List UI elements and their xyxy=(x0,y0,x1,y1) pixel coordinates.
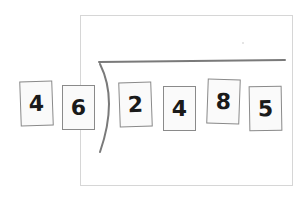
card-digit: 8 xyxy=(215,89,231,115)
card-digit: 5 xyxy=(258,96,274,121)
divisor-card-2[interactable]: 6 xyxy=(62,85,95,130)
dividend-card-2[interactable]: 4 xyxy=(163,86,196,131)
card-digit: 6 xyxy=(71,95,86,120)
dividend-card-4[interactable]: 5 xyxy=(249,86,283,132)
card-digit: 4 xyxy=(28,91,44,117)
dividend-card-3[interactable]: 8 xyxy=(206,78,241,124)
dividend-card-1[interactable]: 2 xyxy=(118,81,153,127)
divisor-card-1[interactable]: 4 xyxy=(19,80,54,126)
card-digit: 4 xyxy=(172,96,187,121)
card-digit: 2 xyxy=(127,92,143,118)
